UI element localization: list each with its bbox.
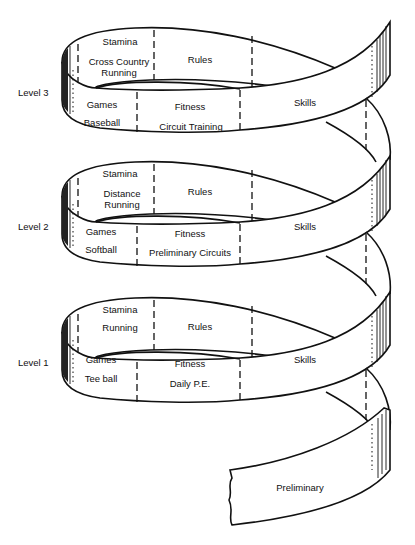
l1-fitness-title: Fitness	[165, 358, 215, 369]
l3-stamina-activity-1: Cross Country	[84, 56, 154, 67]
l2-rules: Rules	[180, 186, 220, 197]
l3-rules: Rules	[180, 54, 220, 65]
preliminary-ribbon	[229, 408, 390, 525]
level-3-label: Level 3	[18, 87, 49, 98]
l3-stamina-activity-2: Running	[84, 67, 154, 78]
l1-skills: Skills	[285, 354, 325, 365]
l2-games-activity: Softball	[80, 244, 122, 255]
l1-games-activity: Tee ball	[80, 373, 122, 384]
l1-fitness-activity: Daily P.E.	[160, 378, 220, 389]
l2-skills: Skills	[285, 221, 325, 232]
l3-games-title: Games	[82, 99, 122, 110]
spiral-diagram	[0, 0, 415, 545]
l2-stamina-activity-2: Running	[94, 199, 150, 210]
l2-stamina-activity-1: Distance	[94, 188, 150, 199]
preliminary-label: Preliminary	[270, 482, 330, 493]
l2-stamina-title: Stamina	[95, 168, 145, 179]
l3-stamina-title: Stamina	[95, 36, 145, 47]
l1-games-title: Games	[81, 354, 121, 365]
l1-stamina-title: Stamina	[95, 304, 145, 315]
l3-fitness-title: Fitness	[165, 101, 215, 112]
l3-games-activity: Baseball	[80, 117, 124, 128]
l1-stamina-activity: Running	[95, 322, 145, 333]
l1-rules: Rules	[180, 321, 220, 332]
l2-fitness-title: Fitness	[165, 228, 215, 239]
l2-games-title: Games	[81, 226, 121, 237]
l3-skills: Skills	[285, 97, 325, 108]
l3-fitness-activity: Circuit Training	[150, 121, 232, 132]
l2-fitness-activity: Preliminary Circuits	[145, 247, 235, 258]
level-2-label: Level 2	[18, 221, 49, 232]
level-1-label: Level 1	[18, 357, 49, 368]
